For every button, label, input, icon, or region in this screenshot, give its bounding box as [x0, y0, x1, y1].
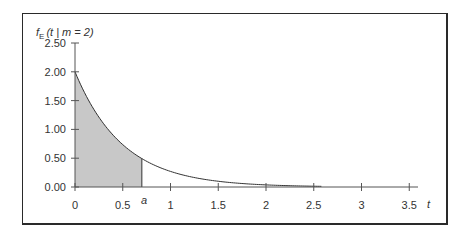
x-tick-label: 2.5: [306, 199, 321, 211]
y-tick-label: 2.50: [45, 37, 66, 49]
y-tick-label: 0.00: [45, 181, 66, 193]
x-axis-title: t: [427, 198, 431, 210]
y-tick-label: 0.50: [45, 152, 66, 164]
x-tick-label: 2: [263, 199, 269, 211]
y-tick-label: 1.00: [45, 123, 66, 135]
x-tick-label: 0.5: [115, 199, 130, 211]
y-tick-label: 2.00: [45, 66, 66, 78]
a-annotation: a: [141, 194, 147, 206]
x-tick-label: 3: [358, 199, 364, 211]
y-tick-label: 1.50: [45, 95, 66, 107]
x-tick-label: 0: [72, 199, 78, 211]
x-tick-label: 3.5: [402, 199, 417, 211]
chart-svg: 0.000.501.001.502.002.50 00.511.522.533.…: [0, 0, 462, 239]
x-tick-label: 1: [167, 199, 173, 211]
y-axis-ticks: 0.000.501.001.502.002.50: [45, 37, 79, 193]
x-tick-label: 1.5: [211, 199, 226, 211]
